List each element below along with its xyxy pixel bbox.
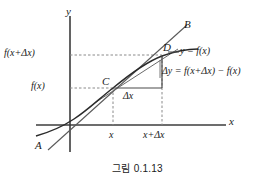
point-label-d: D	[163, 42, 171, 53]
curve-equation-label: y = f(x)	[180, 46, 210, 56]
point-label-c: C	[102, 76, 109, 87]
point-label-b: B	[184, 19, 191, 30]
y-tick-label-fx-plus-dx: f(x+Δx)	[4, 48, 35, 58]
x-tick-label-x: x	[109, 130, 113, 140]
figure-caption: 그림 0.1.13	[0, 160, 275, 175]
x-axis-label: x	[229, 116, 234, 127]
delta-y-equation-label: Δy = f(x+Δx) − f(x)	[162, 66, 241, 76]
y-axis-label: y	[66, 6, 71, 17]
point-label-a: A	[35, 140, 42, 151]
x-tick-label-x-plus-dx: x+Δx	[143, 130, 165, 140]
function-curve	[36, 49, 198, 136]
delta-x-label: Δx	[123, 91, 133, 101]
figure-container: y x A B C D f(x+Δx) f(x) x x+Δx y = f(x)…	[0, 0, 275, 181]
y-tick-label-fx: f(x)	[31, 81, 45, 91]
